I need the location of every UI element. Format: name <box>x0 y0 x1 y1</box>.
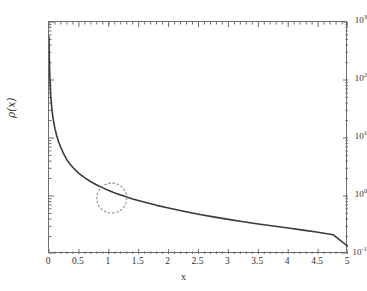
x-tick-label: 1 <box>105 256 110 266</box>
annotation-circle <box>97 183 127 213</box>
plot-area <box>48 21 347 253</box>
x-tick-label: 4 <box>285 256 290 266</box>
figure: ρ(x) 103 102 101 100 10-1 00.511.522.533… <box>0 0 367 291</box>
y-axis-label-text: ρ(x) <box>5 98 17 118</box>
x-tick-label: 2.5 <box>192 256 204 266</box>
x-tick-label: 2 <box>165 256 170 266</box>
plot-canvas <box>49 22 348 254</box>
x-tick-label: 0.5 <box>72 256 84 266</box>
y-axis-label: ρ(x) <box>5 98 17 118</box>
x-tick-label: 4.5 <box>311 256 323 266</box>
x-tick-label: 3.5 <box>251 256 263 266</box>
axis-minor-ticks <box>49 22 348 254</box>
axis-ticks <box>49 22 348 254</box>
x-axis-label: x <box>0 271 367 282</box>
x-tick-label: 5 <box>345 256 350 266</box>
data-curve <box>49 37 348 247</box>
x-tick-label: 1.5 <box>132 256 144 266</box>
x-tick-label: 0 <box>46 256 51 266</box>
x-tick-label: 3 <box>225 256 230 266</box>
